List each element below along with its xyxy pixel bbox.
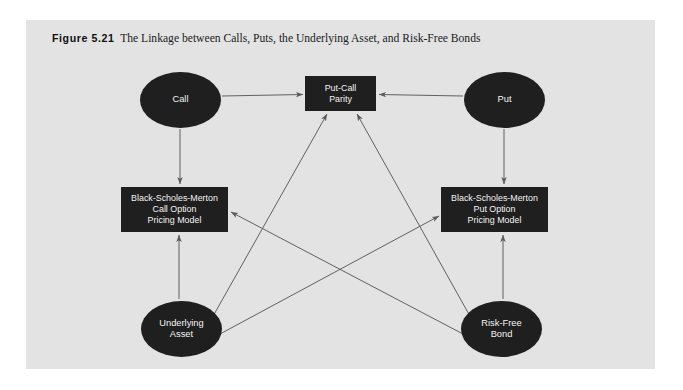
node-bsm-call-option-pricing-model-label: Black-Scholes-Merton Call Option Pricing… — [131, 193, 218, 226]
node-put-call-parity[interactable]: Put-Call Parity — [305, 76, 376, 111]
node-underlying-asset[interactable]: Underlying Asset — [141, 301, 222, 357]
node-risk-free-bond-label: Risk-Free Bond — [481, 318, 521, 341]
arrow-layer — [0, 0, 683, 390]
arrow-underlying-to-parity — [212, 114, 327, 318]
node-bsm-put-option-pricing-model[interactable]: Black-Scholes-Merton Put Option Pricing … — [441, 187, 548, 232]
node-put-label: Put — [498, 94, 512, 105]
node-call-label: Call — [172, 94, 188, 105]
node-bsm-put-option-pricing-model-label: Black-Scholes-Merton Put Option Pricing … — [451, 193, 538, 226]
node-put-call-parity-label: Put-Call Parity — [325, 83, 357, 105]
arrow-underlying-to-bsm-put — [220, 216, 439, 334]
node-underlying-asset-label: Underlying Asset — [159, 318, 203, 341]
figure-diagram: Figure 5.21 The Linkage between Calls, P… — [0, 0, 683, 390]
node-risk-free-bond[interactable]: Risk-Free Bond — [461, 301, 542, 357]
node-bsm-call-option-pricing-model[interactable]: Black-Scholes-Merton Call Option Pricing… — [121, 187, 228, 232]
arrow-put-to-parity — [379, 95, 463, 97]
arrow-call-to-parity — [222, 95, 303, 97]
node-call[interactable]: Call — [140, 72, 221, 128]
node-put[interactable]: Put — [464, 72, 545, 128]
arrow-riskfree-to-bsm-call — [231, 212, 463, 334]
